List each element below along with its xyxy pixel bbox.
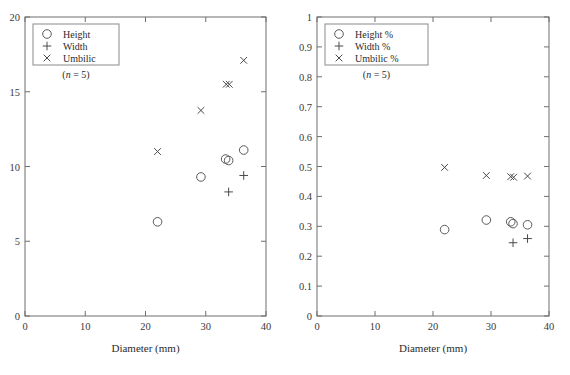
circle-marker [482,216,491,225]
cross-marker [240,57,247,64]
cross-marker [441,164,448,171]
x-tick-label: 40 [261,321,272,332]
chart-panel-right: 01020304000.10.20.30.40.50.60.70.80.91Di… [285,0,570,375]
series-width [224,171,248,196]
plot-area-right: 01020304000.10.20.30.40.50.60.70.80.91Di… [285,0,570,375]
circle-marker [239,146,248,155]
x-tick-label: 0 [314,321,319,332]
x-tick-label: 30 [486,321,497,332]
legend-label: Height % [355,29,393,40]
legend-label: Umbilic [63,53,96,64]
x-tick-label: 10 [370,321,381,332]
cross-marker [154,148,161,155]
sample-size-note: (n = 5) [363,69,390,81]
x-tick-label: 0 [22,321,27,332]
y-tick-label: 0.1 [299,281,312,292]
x-tick-label: 40 [544,321,555,332]
legend-label: Height [63,29,90,40]
series-width [509,234,532,247]
legend-label: Umbilic % [355,53,399,64]
y-tick-label: 0 [15,311,20,322]
y-tick-label: 0.5 [299,162,312,173]
plus-marker [509,238,518,247]
x-tick-label: 30 [201,321,212,332]
y-tick-label: 0.9 [299,42,312,53]
legend: HeightWidthUmbilic [33,24,119,65]
y-tick-label: 15 [10,87,21,98]
y-tick-label: 0.3 [299,221,312,232]
circle-marker [153,218,162,227]
y-tick-label: 0.6 [299,132,312,143]
circle-marker [509,219,518,228]
x-axis-title: Diameter (mm) [111,342,179,355]
y-tick-label: 1 [307,12,312,23]
x-tick-label: 20 [428,321,439,332]
chart-panel-left: 01020304005101520Diameter (mm)HeightWidt… [0,0,285,375]
series-umbilic [154,57,247,155]
y-tick-label: 10 [10,162,21,173]
circle-marker [523,221,532,230]
scatter-figure: 01020304005101520Diameter (mm)HeightWidt… [0,0,570,375]
cross-marker [524,173,531,180]
y-tick-label: 0.2 [299,251,312,262]
series-height [153,146,248,226]
x-tick-label: 10 [80,321,91,332]
series-height [440,216,532,234]
cross-marker [483,172,490,179]
sample-size-note: (n = 5) [62,69,89,81]
plus-marker [239,171,248,180]
series-umbilic [441,164,531,181]
y-tick-label: 0 [307,311,312,322]
circle-marker [224,156,233,165]
cross-marker [198,107,205,114]
circle-marker [197,173,206,182]
y-tick-label: 0.7 [299,102,312,113]
x-tick-label: 20 [140,321,151,332]
circle-marker [440,225,449,234]
plus-marker [523,234,532,243]
legend: Height %Width %Umbilic % [325,24,428,65]
y-tick-label: 0.8 [299,72,312,83]
x-axis-title: Diameter (mm) [399,342,467,355]
plus-marker [224,188,233,197]
legend-label: Width [63,41,88,52]
circle-marker [506,218,515,227]
legend-label: Width % [355,41,390,52]
y-tick-label: 5 [15,236,20,247]
plot-area-left: 01020304005101520Diameter (mm)HeightWidt… [0,0,285,375]
y-tick-label: 0.4 [299,191,313,202]
y-tick-label: 20 [10,12,21,23]
